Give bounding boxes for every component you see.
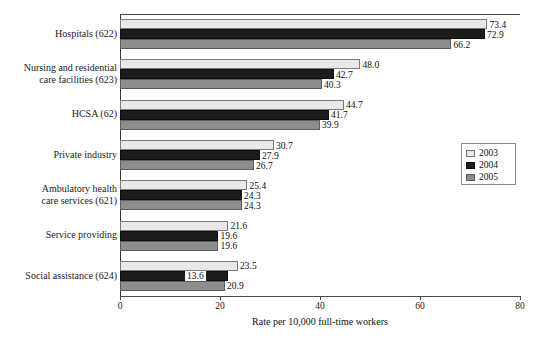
bar-value-label: 73.4 [487, 20, 506, 30]
bar-2003[interactable] [120, 140, 274, 150]
x-tick-label-80: 80 [500, 301, 540, 312]
category-label: Service providing [2, 229, 117, 242]
category-label-line: Service providing [2, 229, 117, 242]
bar-2004[interactable] [120, 110, 329, 120]
category-label: Social assistance (624) [2, 270, 117, 283]
bar-value-label: 24.3 [242, 201, 261, 211]
bar-group: 30.727.926.7 [120, 140, 520, 170]
category-label-line: Social assistance (624) [2, 270, 117, 283]
category-label: Ambulatory healthcare services (621) [2, 183, 117, 208]
category-label-line: Private industry [2, 149, 117, 162]
x-axis-title: Rate per 10,000 full-time workers [120, 316, 520, 327]
plot-area: 73.472.966.248.042.740.344.741.739.930.7… [120, 14, 520, 296]
legend-label-2004: 2004 [479, 160, 498, 171]
bar-value-label: 26.7 [254, 161, 273, 171]
bar-value-label: 25.4 [247, 181, 266, 191]
legend-item-2005[interactable]: 2005 [466, 171, 515, 183]
category-label: Private industry [2, 149, 117, 162]
x-tick-label-20: 20 [200, 301, 240, 312]
legend: 2003 2004 2005 [461, 143, 516, 185]
bar-value-label: 19.6 [218, 241, 237, 251]
bar-value-label: 40.3 [322, 80, 341, 90]
bar-2005[interactable] [120, 281, 225, 291]
bar-2003[interactable] [120, 180, 247, 190]
bar-2003[interactable] [120, 19, 487, 29]
legend-label-2003: 2003 [479, 148, 498, 159]
bar-2005[interactable] [120, 39, 451, 49]
category-label: HCSA (62) [2, 108, 117, 121]
bar-2005[interactable] [120, 200, 242, 210]
bar-2003[interactable] [120, 221, 228, 231]
x-tick-0 [120, 296, 121, 300]
bar-group: 73.472.966.2 [120, 19, 520, 49]
bar-2004[interactable] [120, 190, 242, 200]
bar-value-label: 48.0 [360, 60, 379, 70]
bar-group: 25.424.324.3 [120, 180, 520, 210]
legend-swatch-2003-icon [466, 150, 475, 157]
bar-2005[interactable] [120, 241, 218, 251]
bar-2003[interactable] [120, 261, 238, 271]
bar-group: 23.513.620.9 [120, 261, 520, 291]
bar-2005[interactable] [120, 79, 322, 89]
category-label-line: Nursing and residential [2, 62, 117, 75]
bar-2004[interactable] [120, 271, 228, 281]
bar-value-label: 39.9 [320, 120, 339, 130]
bar-2003[interactable] [120, 100, 344, 110]
x-tick-label-0: 0 [100, 301, 140, 312]
category-label-line: care facilities (623) [2, 74, 117, 87]
legend-swatch-2004-icon [466, 162, 475, 169]
bar-value-label: 27.9 [260, 151, 279, 161]
bar-value-label: 30.7 [274, 141, 293, 151]
bar-value-label: 20.9 [225, 281, 244, 291]
x-tick-label-40: 40 [300, 301, 340, 312]
x-tick-label-60: 60 [400, 301, 440, 312]
bar-value-label: 21.6 [228, 221, 247, 231]
bar-value-label: 13.6 [185, 271, 206, 281]
bar-2003[interactable] [120, 59, 360, 69]
bar-value-label: 41.7 [329, 110, 348, 120]
x-tick-40 [320, 296, 321, 300]
category-labels: Hospitals (622)Nursing and residentialca… [0, 0, 117, 340]
category-label: Nursing and residentialcare facilities (… [2, 62, 117, 87]
category-label: Hospitals (622) [2, 28, 117, 41]
bar-chart: Hospitals (622)Nursing and residentialca… [0, 0, 542, 340]
x-tick-80 [520, 296, 521, 300]
category-label-line: care services (621) [2, 195, 117, 208]
bar-2005[interactable] [120, 160, 254, 170]
bar-value-label: 23.5 [238, 261, 257, 271]
legend-label-2005: 2005 [479, 172, 498, 183]
category-label-line: HCSA (62) [2, 108, 117, 121]
bar-value-label: 19.6 [218, 231, 237, 241]
x-tick-60 [420, 296, 421, 300]
legend-item-2003[interactable]: 2003 [466, 147, 515, 159]
bar-value-label: 72.9 [485, 30, 504, 40]
bar-2004[interactable] [120, 29, 485, 39]
bar-2004[interactable] [120, 150, 260, 160]
x-tick-20 [220, 296, 221, 300]
bar-value-label: 66.2 [451, 40, 470, 50]
category-label-line: Hospitals (622) [2, 28, 117, 41]
bar-2005[interactable] [120, 120, 320, 130]
bar-2004[interactable] [120, 231, 218, 241]
bar-value-label: 42.7 [334, 70, 353, 80]
legend-item-2004[interactable]: 2004 [466, 159, 515, 171]
bar-group: 48.042.740.3 [120, 59, 520, 89]
bar-group: 21.619.619.6 [120, 221, 520, 251]
bar-value-label: 44.7 [344, 100, 363, 110]
bar-2004[interactable] [120, 69, 334, 79]
bar-group: 44.741.739.9 [120, 100, 520, 130]
category-label-line: Ambulatory health [2, 183, 117, 196]
legend-swatch-2005-icon [466, 174, 475, 181]
bar-value-label: 24.3 [242, 191, 261, 201]
